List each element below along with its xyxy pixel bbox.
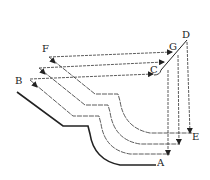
- vertical-d-to-e: [187, 42, 190, 133]
- label-a: A: [156, 157, 165, 168]
- projection-f-to-g: [49, 52, 172, 57]
- moulding-projection-diagram: F B G D C E A: [0, 0, 210, 180]
- label-b: B: [15, 75, 22, 86]
- label-c: C: [150, 64, 158, 75]
- profile-f: [49, 57, 192, 133]
- vertical-from-g: [178, 55, 179, 144]
- label-e: E: [192, 131, 199, 142]
- label-d: D: [182, 29, 190, 40]
- projection-mid-to-c: [39, 62, 164, 68]
- label-f: F: [42, 43, 49, 54]
- label-g: G: [169, 41, 177, 52]
- projection-b-to-c: [30, 74, 153, 79]
